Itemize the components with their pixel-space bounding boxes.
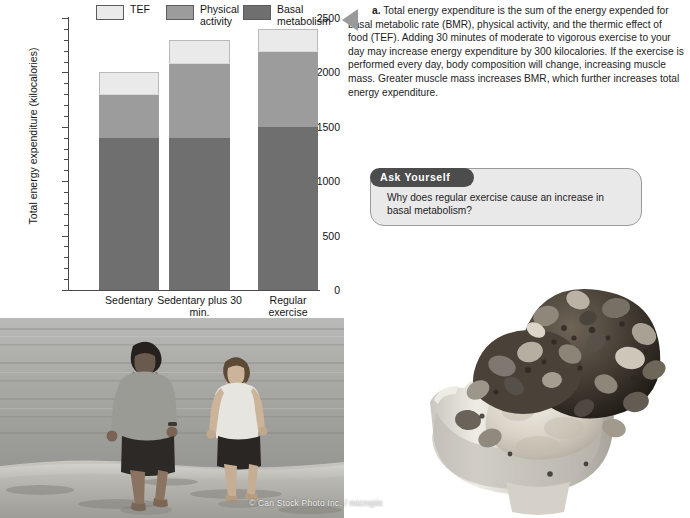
y-axis-tick (64, 279, 68, 280)
x-axis-line (68, 290, 320, 291)
y-axis-tick (64, 170, 68, 171)
photo-ice-cream-sundae (378, 242, 690, 518)
legend-item-physical-activity: Physical activity (166, 4, 239, 27)
figure-caption: a. Total energy expenditure is the sum o… (348, 4, 684, 99)
y-axis-tick (62, 72, 68, 73)
chart-bar (99, 72, 159, 290)
y-axis-title: Total energy expenditure (kilocalories) (27, 11, 39, 261)
legend-swatch-basal-metabolism (243, 5, 271, 20)
y-axis-tick (64, 40, 68, 41)
triangle-pointer-icon (342, 9, 358, 31)
y-axis-line (68, 17, 69, 291)
bar-segment-basal-metabolism (99, 138, 159, 290)
runners-photo-graphic (0, 318, 344, 518)
y-axis-tick (62, 181, 68, 182)
bar-segment-physical-activity (258, 51, 318, 127)
y-axis-tick (64, 225, 68, 226)
ask-yourself-card: Ask Yourself Why does regular exercise c… (370, 168, 642, 226)
y-axis-tick-label: 2500 (294, 12, 340, 24)
y-axis-tick (64, 138, 68, 139)
y-axis-tick (62, 290, 68, 291)
photo-credit: © Can Stock Photo Inc. / micropix (249, 498, 383, 508)
y-axis-tick (64, 62, 68, 63)
y-axis-tick (64, 268, 68, 269)
sundae-photo-graphic (378, 242, 690, 518)
y-axis-tick (64, 214, 68, 215)
chart-bar (258, 29, 318, 290)
bar-segment-tef (169, 40, 230, 63)
chart-bar (169, 40, 230, 290)
y-axis-tick (64, 83, 68, 84)
energy-expenditure-chart: TEF Physical activity Basal metabolism T… (0, 0, 340, 312)
y-axis-tick (64, 192, 68, 193)
bar-segment-basal-metabolism (258, 127, 318, 290)
legend-item-tef: TEF (96, 4, 150, 20)
y-axis-tick (64, 246, 68, 247)
y-axis-tick (64, 159, 68, 160)
y-axis-tick (64, 257, 68, 258)
caption-text: a. Total energy expenditure is the sum o… (348, 4, 684, 99)
ask-yourself-tab-label: Ask Yourself (370, 168, 474, 187)
bar-segment-tef (258, 29, 318, 51)
ask-yourself-question: Why does regular exercise cause an incre… (387, 191, 631, 217)
bar-segment-physical-activity (99, 94, 159, 138)
legend-label-physical-activity: Physical activity (200, 4, 239, 27)
y-axis-tick (64, 51, 68, 52)
legend-swatch-tef (96, 5, 124, 20)
y-axis-tick (64, 116, 68, 117)
y-axis-tick (64, 149, 68, 150)
y-axis-tick (64, 94, 68, 95)
legend-label-tef: TEF (130, 4, 150, 16)
legend-swatch-physical-activity (166, 5, 194, 20)
y-axis-tick (64, 105, 68, 106)
y-axis-tick (62, 18, 68, 19)
y-axis-tick (64, 29, 68, 30)
y-axis-tick (62, 236, 68, 237)
y-axis-tick (64, 203, 68, 204)
bar-segment-physical-activity (169, 63, 230, 138)
x-axis-category-label: Regular exercise (236, 294, 340, 318)
photo-runners-on-beach (0, 318, 344, 518)
y-axis-tick (62, 127, 68, 128)
bar-segment-tef (99, 72, 159, 94)
bar-segment-basal-metabolism (169, 138, 230, 290)
